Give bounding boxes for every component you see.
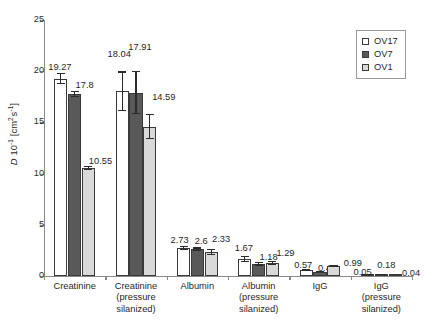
category-label-line: (pressure <box>101 292 170 303</box>
bar-slot: 14.59 <box>143 20 156 276</box>
y-tick-label: 0 <box>10 271 44 280</box>
bar-slot: 19.27 <box>54 20 67 276</box>
bar-group: 19.2717.810.55 <box>54 20 95 276</box>
bar-slot: 1.67 <box>238 20 251 276</box>
x-axis-category-label: Albumin <box>163 281 232 292</box>
error-bar-cap <box>71 91 79 92</box>
category-label-line: Creatinine <box>101 281 170 292</box>
legend: OV17 OV7 OV1 <box>356 30 406 79</box>
error-bar-cap <box>57 73 65 74</box>
bar[interactable] <box>205 252 218 276</box>
error-bar-cap <box>377 274 385 275</box>
error-bar-cap <box>255 262 263 263</box>
bar-slot: 10.55 <box>82 20 95 276</box>
bar-slot: 18.04 <box>116 20 129 276</box>
error-bar-cap <box>241 256 249 257</box>
legend-label: OV17 <box>374 37 398 46</box>
bar-slot: 1.18 <box>252 20 265 276</box>
error-bar-cap <box>207 254 215 255</box>
bar[interactable] <box>191 249 204 276</box>
error-bar-cap <box>146 138 154 139</box>
legend-item[interactable]: OV7 <box>362 48 398 61</box>
error-bar-cap <box>268 261 276 262</box>
y-tick-label: 10 <box>10 169 44 178</box>
bar[interactable] <box>54 79 67 276</box>
bar-slot: 2.6 <box>191 20 204 276</box>
y-tick-label: 25 <box>10 15 44 24</box>
x-tick-mark <box>289 276 290 280</box>
x-tick-mark <box>44 276 45 280</box>
error-bar-cap <box>71 96 79 97</box>
x-tick-mark <box>105 276 106 280</box>
category-label-line: Albumin <box>224 281 293 292</box>
bar-group: 2.732.62.33 <box>177 20 218 276</box>
category-label-line: IgG <box>285 281 354 292</box>
bar-slot: 17.91 <box>129 20 142 276</box>
x-axis-category-label: IgG <box>285 281 354 292</box>
category-label-line: IgG <box>347 281 416 292</box>
error-bar-cap <box>146 114 154 115</box>
bar[interactable] <box>129 93 142 276</box>
bar-value-label: 0.04 <box>394 269 428 278</box>
error-bar-cap <box>180 249 188 250</box>
category-label-line: silanized) <box>101 304 170 315</box>
error-bar-cap <box>118 110 126 111</box>
bar-group: 0.570.440.99 <box>300 20 341 276</box>
bar-slot: 0.57 <box>300 20 313 276</box>
bar[interactable] <box>116 91 129 276</box>
bar-group: 1.671.181.29 <box>238 20 279 276</box>
x-axis-category-label: Creatinine(pressuresilanized) <box>101 281 170 315</box>
error-bar-cap <box>241 261 249 262</box>
bar[interactable] <box>252 264 265 276</box>
legend-swatch-ov1 <box>362 64 369 71</box>
bar-slot: 17.8 <box>68 20 81 276</box>
bar-group: 18.0417.9114.59 <box>116 20 157 276</box>
bar-slot: 0.99 <box>327 20 340 276</box>
error-bar-stem <box>135 71 136 114</box>
legend-swatch-ov7 <box>362 51 369 58</box>
x-axis-category-label: Albumin(pressuresilanized) <box>224 281 293 315</box>
legend-item[interactable]: OV17 <box>362 35 398 48</box>
category-label-line: Albumin <box>163 281 232 292</box>
error-bar-stem <box>122 71 123 111</box>
y-tick-label: 5 <box>10 220 44 229</box>
category-label-line: (pressure <box>347 292 416 303</box>
error-bar-cap <box>193 250 201 251</box>
error-bar-cap <box>118 71 126 72</box>
bar-value-label: 14.59 <box>147 93 181 102</box>
error-bar-cap <box>84 169 92 170</box>
legend-item[interactable]: OV1 <box>362 61 398 74</box>
bar-slot: 0.44 <box>313 20 326 276</box>
error-bar-cap <box>132 71 140 72</box>
error-bar-cap <box>207 249 215 250</box>
error-bar-cap <box>255 264 263 265</box>
category-label-line: Creatinine <box>40 281 109 292</box>
x-axis-category-label: IgG(pressuresilanized) <box>347 281 416 315</box>
error-bar-cap <box>268 264 276 265</box>
bar-slot: 2.33 <box>205 20 218 276</box>
error-bar-cap <box>193 247 201 248</box>
legend-swatch-ov17 <box>362 38 369 45</box>
error-bar-stem <box>149 114 150 140</box>
bar[interactable] <box>68 94 81 276</box>
error-bar-cap <box>57 83 65 84</box>
category-label-line: silanized) <box>224 304 293 315</box>
bar[interactable] <box>177 248 190 276</box>
error-bar-cap <box>84 166 92 167</box>
x-tick-mark <box>228 276 229 280</box>
x-axis-category-label: Creatinine <box>40 281 109 292</box>
bar[interactable] <box>143 127 156 276</box>
error-bar-cap <box>132 113 140 114</box>
y-tick-label: 15 <box>10 117 44 126</box>
legend-label: OV7 <box>374 50 393 59</box>
bar-chart: D 10-1 [cm2 s-1] 0510152025 19.2717.810.… <box>0 0 435 334</box>
category-label-line: silanized) <box>347 304 416 315</box>
category-label-line: (pressure <box>224 292 293 303</box>
legend-label: OV1 <box>374 63 393 72</box>
bar[interactable] <box>82 168 95 276</box>
bar-value-label: 1.29 <box>268 249 302 258</box>
bar-slot: 1.29 <box>266 20 279 276</box>
y-tick-label: 20 <box>10 66 44 75</box>
x-tick-mark <box>167 276 168 280</box>
bar-value-label: 10.55 <box>83 157 117 166</box>
